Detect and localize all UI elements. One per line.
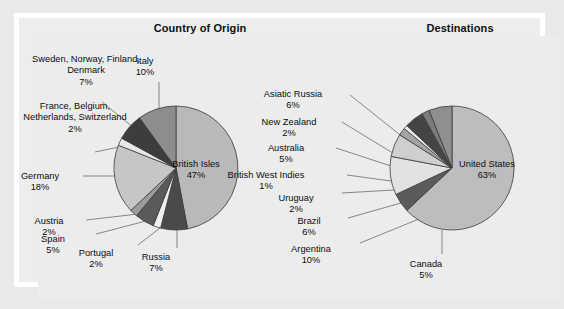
pie-label-pct-spain: 5%	[46, 245, 59, 255]
pie-label-pct-canada: 5%	[419, 270, 432, 280]
pie-label-name-sweden-norway-finland-denmark: Sweden, Norway, Finland, Denmark	[32, 54, 140, 75]
pie-label-austria: Austria2%	[35, 216, 64, 239]
pie-label-name-france-belgium-netherlands-switzerland: France, Belgium, Netherlands, Switzerlan…	[23, 101, 126, 122]
pie-label-pct-australia: 5%	[279, 154, 292, 164]
pie-label-pct-uruguay: 2%	[289, 204, 302, 214]
pie-label-name-new-zealand: New Zealand	[262, 117, 317, 127]
pie-label-portugal: Portugal2%	[79, 248, 114, 271]
pie-label-pct-italy: 10%	[136, 67, 155, 77]
pie-label-pct-germany: 18%	[31, 182, 50, 192]
pie-label-name-austria: Austria	[35, 216, 64, 226]
pie-label-name-british-west-indies: British West Indies	[228, 170, 305, 180]
pie-label-name-british-isles: British Isles	[172, 159, 220, 169]
pie-label-pct-british-west-indies: 1%	[259, 181, 272, 191]
pie-label-new-zealand: New Zealand2%	[262, 117, 317, 140]
pie-label-uruguay: Uruguay2%	[278, 193, 313, 216]
pie-label-pct-portugal: 2%	[89, 259, 102, 269]
pie-label-sweden-norway-finland-denmark: Sweden, Norway, Finland, Denmark7%	[31, 54, 141, 88]
pie-label-canada: Canada5%	[410, 259, 443, 282]
pie-label-pct-france-belgium-netherlands-switzerland: 2%	[68, 124, 81, 134]
pie-label-pct-asiatic-russia: 6%	[286, 100, 299, 110]
pie-label-argentina: Argentina10%	[291, 244, 331, 267]
pie-label-brazil: Brazil6%	[297, 216, 320, 239]
pie-label-pct-british-isles: 47%	[187, 170, 206, 180]
pie-label-russia: Russia7%	[142, 252, 170, 275]
pie-label-france-belgium-netherlands-switzerland: France, Belgium, Netherlands, Switzerlan…	[20, 101, 130, 135]
figure-canvas: Country of Origin Destinations British I…	[0, 0, 564, 309]
pie-label-british-west-indies: British West Indies1%	[228, 170, 305, 193]
pie-label-pct-united-states: 63%	[478, 170, 497, 180]
pie-label-united-states: United States63%	[459, 159, 515, 182]
pie-label-pct-sweden-norway-finland-denmark: 7%	[79, 77, 92, 87]
pie-label-name-uruguay: Uruguay	[278, 193, 313, 203]
pie-label-germany: Germany18%	[21, 171, 59, 194]
pie-label-name-asiatic-russia: Asiatic Russia	[264, 89, 322, 99]
chart-title-country-of-origin: Country of Origin	[110, 22, 290, 34]
pie-label-australia: Australia5%	[268, 143, 304, 166]
pie-label-name-germany: Germany	[21, 171, 59, 181]
pie-label-pct-brazil: 6%	[302, 227, 315, 237]
pie-label-name-canada: Canada	[410, 259, 443, 269]
pie-label-name-russia: Russia	[142, 252, 170, 262]
pie-label-british-isles: British Isles47%	[172, 159, 220, 182]
pie-label-name-australia: Australia	[268, 143, 304, 153]
pie-label-name-portugal: Portugal	[79, 248, 114, 258]
pie-label-name-argentina: Argentina	[291, 244, 331, 254]
chart-title-destinations: Destinations	[390, 22, 530, 34]
pie-label-name-italy: Italy	[136, 56, 153, 66]
pie-label-asiatic-russia: Asiatic Russia6%	[264, 89, 322, 112]
pie-label-pct-new-zealand: 2%	[282, 128, 295, 138]
pie-label-pct-argentina: 10%	[302, 255, 321, 265]
pie-label-pct-austria: 2%	[42, 227, 55, 237]
pie-label-name-brazil: Brazil	[297, 216, 320, 226]
pie-label-name-united-states: United States	[459, 159, 515, 169]
pie-label-pct-russia: 7%	[149, 263, 162, 273]
pie-label-italy: Italy10%	[136, 56, 155, 79]
